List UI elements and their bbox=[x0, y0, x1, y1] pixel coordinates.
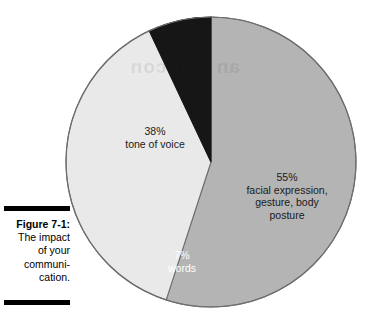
pie-label-facial-expression-percent: 55% bbox=[212, 171, 362, 184]
pie-label-facial-expression: 55% facial expression, gesture, body pos… bbox=[212, 171, 362, 221]
pie-label-words-line-1: words bbox=[146, 262, 218, 275]
pie-chart: an you con 55% facial expression, gestur… bbox=[60, 8, 371, 320]
pie-label-words-percent: 7% bbox=[146, 249, 218, 262]
pie-label-facial-expression-line-1: facial expression, bbox=[212, 184, 362, 197]
pie-label-tone-of-voice-percent: 38% bbox=[100, 125, 210, 138]
pie-label-facial-expression-line-3: posture bbox=[212, 209, 362, 222]
pie-label-tone-of-voice-line-1: tone of voice bbox=[100, 138, 210, 151]
pie-label-words: 7% words bbox=[146, 249, 218, 274]
figure-page: Figure 7-1: The impact of your communi- … bbox=[0, 0, 371, 324]
pie-label-tone-of-voice: 38% tone of voice bbox=[100, 125, 210, 150]
pie-label-facial-expression-line-2: gesture, body bbox=[212, 196, 362, 209]
